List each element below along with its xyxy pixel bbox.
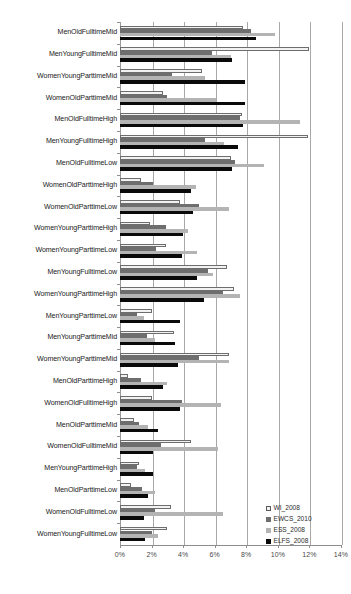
bar-ELFS_2008	[120, 189, 191, 193]
bar-ELFS_2008	[120, 363, 178, 367]
chart-category-row: MenYoungParttimeMid	[0, 327, 351, 349]
bar-ELFS_2008	[120, 167, 232, 171]
bar-ELFS_2008	[120, 233, 183, 237]
category-tick-mark	[117, 327, 120, 328]
bar-ELFS_2008	[120, 58, 232, 62]
category-axis-label: WomenYoungParttimeMid	[37, 356, 117, 363]
bar-ELFS_2008	[120, 254, 182, 258]
category-axis-label: WomenOldFulltimeHigh	[44, 400, 117, 407]
x-tick-label: 6%	[210, 551, 220, 558]
legend-label: ELFS_2008	[274, 538, 309, 545]
category-axis-label: MenOldFulltimeLow	[56, 160, 117, 167]
x-tick-mark	[120, 545, 121, 548]
legend-swatch-icon	[266, 506, 271, 511]
category-tick-mark	[117, 392, 120, 393]
legend-label: EWCS_2010	[274, 516, 312, 523]
x-tick-mark	[246, 545, 247, 548]
category-axis-label: MenOldParttimeMid	[56, 422, 117, 429]
bar-ELFS_2008	[120, 407, 180, 411]
legend-swatch-icon	[266, 528, 271, 533]
x-tick-label: 14%	[334, 551, 348, 558]
chart-category-row: WomenYoungParttimeHigh	[0, 218, 351, 240]
category-axis-label: WomenOldParttimeHigh	[43, 182, 117, 189]
category-axis-label: WomenYoungParttimeHigh	[34, 225, 117, 232]
category-axis-label: WomenOldFulltimeLow	[46, 509, 117, 516]
category-tick-mark	[117, 501, 120, 502]
x-tick-label: 2%	[146, 551, 156, 558]
x-tick-mark	[183, 545, 184, 548]
legend-label: ESS_2008	[274, 527, 306, 534]
legend-item: EWCS_2010	[266, 514, 336, 525]
category-axis-label: MenOldFulltimeHigh	[55, 116, 117, 123]
chart-category-row: MenOldFulltimeMid	[0, 22, 351, 44]
bar-ELFS_2008	[120, 211, 193, 215]
category-tick-mark	[117, 218, 120, 219]
category-axis-label: MenYoungParttimeHigh	[44, 465, 117, 472]
x-tick-label: 10%	[271, 551, 285, 558]
category-axis-label: MenYoungFulltimeLow	[47, 269, 117, 276]
bar-ELFS_2008	[120, 342, 175, 346]
chart-category-row: WomenYoungParttimeHigh	[0, 284, 351, 306]
category-tick-mark	[117, 349, 120, 350]
category-tick-mark	[117, 305, 120, 306]
bar-ELFS_2008	[120, 102, 245, 106]
bar-ELFS_2008	[120, 385, 163, 389]
chart-category-row: MenOldParttimeLow	[0, 480, 351, 502]
x-tick-mark	[341, 545, 342, 548]
x-tick-label: 4%	[178, 551, 188, 558]
chart-category-row: WomenYoungParttimeMid	[0, 66, 351, 88]
category-axis-label: WomenYoungParttimeLow	[36, 247, 118, 254]
category-tick-mark	[117, 22, 120, 23]
x-tick-label: 8%	[241, 551, 251, 558]
category-axis-label: WomenYoungFulltimeLow	[37, 531, 117, 538]
legend-item: WI_2008	[266, 503, 336, 514]
chart-category-row: MenYoungParttimeHigh	[0, 458, 351, 480]
chart-category-row: MenOldFulltimeLow	[0, 153, 351, 175]
chart-category-row: MenOldParttimeMid	[0, 414, 351, 436]
category-tick-mark	[117, 131, 120, 132]
category-tick-mark	[117, 523, 120, 524]
category-tick-mark	[117, 66, 120, 67]
category-axis-label: MenOldParttimeLow	[54, 487, 117, 494]
chart-category-row: MenYoungFulltimeLow	[0, 262, 351, 284]
bar-ELFS_2008	[120, 516, 144, 520]
bar-ELFS_2008	[120, 429, 158, 433]
category-tick-mark	[117, 414, 120, 415]
chart-category-row: WomenOldFulltimeMid	[0, 436, 351, 458]
category-axis-label: MenYoungFulltimeHigh	[46, 138, 117, 145]
legend-label: WI_2008	[274, 505, 300, 512]
x-tick-mark	[215, 545, 216, 548]
category-tick-mark	[117, 284, 120, 285]
category-axis-label: MenOldParttimeHigh	[53, 378, 117, 385]
category-tick-mark	[117, 240, 120, 241]
chart-category-row: WomenOldParttimeLow	[0, 196, 351, 218]
category-axis-label: MenYoungParttimeMid	[47, 334, 117, 341]
bar-ELFS_2008	[120, 276, 197, 280]
category-tick-mark	[117, 371, 120, 372]
category-axis-label: WomenYoungParttimeHigh	[34, 291, 117, 298]
category-axis-label: MenYoungFulltimeMid	[49, 51, 117, 58]
legend-swatch-icon	[266, 539, 271, 544]
chart-category-row: MenYoungFulltimeMid	[0, 44, 351, 66]
category-tick-mark	[117, 436, 120, 437]
category-tick-mark	[117, 153, 120, 154]
legend-item: ESS_2008	[266, 525, 336, 536]
category-tick-mark	[117, 262, 120, 263]
category-axis-label: WomenYoungParttimeMid	[37, 73, 117, 80]
x-tick-label: 12%	[302, 551, 316, 558]
chart-category-row: MenOldFulltimeHigh	[0, 109, 351, 131]
category-axis-label: WomenOldParttimeLow	[44, 204, 117, 211]
category-tick-mark	[117, 480, 120, 481]
chart-category-row: WomenOldParttimeHigh	[0, 175, 351, 197]
bar-ELFS_2008	[120, 80, 245, 84]
category-axis-label: MenYoungParttimeLow	[46, 313, 117, 320]
category-tick-mark	[117, 175, 120, 176]
category-tick-mark	[117, 109, 120, 110]
x-tick-mark	[152, 545, 153, 548]
bar-ELFS_2008	[120, 538, 145, 542]
bar-chart: 0%2%4%6%8%10%12%14% MenOldFulltimeMidMen…	[0, 0, 351, 594]
bar-ELFS_2008	[120, 298, 204, 302]
chart-category-row: WomenYoungParttimeMid	[0, 349, 351, 371]
chart-category-row: MenYoungParttimeLow	[0, 305, 351, 327]
category-tick-mark	[117, 44, 120, 45]
